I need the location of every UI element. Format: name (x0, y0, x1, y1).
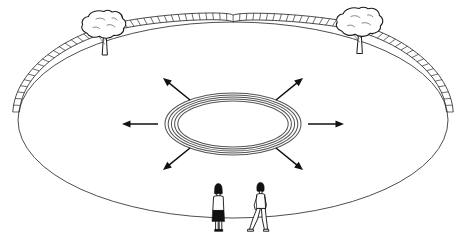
railing-post (293, 15, 296, 22)
railing-post (185, 14, 187, 21)
arrow-northeast-shaft (276, 82, 298, 100)
railing-post (164, 16, 167, 22)
person-walking-shoe-front (263, 229, 269, 231)
railing-post (77, 37, 83, 42)
railing-post (389, 39, 395, 43)
railing-post (192, 14, 194, 21)
railing-post (319, 18, 323, 24)
arrow-east-head (336, 120, 345, 127)
person-walking-leg-front (261, 208, 267, 229)
arrow-northeast (276, 78, 303, 100)
arrow-west-head (122, 120, 131, 127)
railing-post (417, 59, 424, 62)
railing-post (151, 17, 154, 23)
railing-post (144, 18, 147, 24)
railing-post (59, 47, 65, 51)
railing-post (401, 46, 407, 50)
railing-post (260, 13, 261, 20)
scene-svg (0, 0, 467, 244)
arrow-northwest (163, 78, 190, 100)
person-standing-shoes (215, 229, 223, 231)
person-walking-shoe-back (247, 229, 253, 231)
ring-5 (178, 101, 288, 147)
railing-post (377, 33, 383, 38)
railing-post (439, 86, 446, 87)
railing-post (15, 98, 22, 99)
arrow-northwest-shaft (168, 82, 190, 100)
ring-4 (175, 99, 292, 149)
concentric-rings (165, 93, 301, 155)
tree-left-canopy (82, 10, 126, 38)
railing-post (427, 69, 434, 71)
railing-post (18, 92, 25, 93)
person-standing-torso (213, 196, 224, 211)
railing-post (213, 13, 214, 20)
arrow-southwest (163, 148, 190, 170)
arrow-east (308, 120, 344, 127)
platform-outline (18, 22, 448, 218)
ring-2 (168, 95, 298, 153)
arrow-southeast (276, 148, 303, 170)
person-standing-leg-right (219, 221, 222, 230)
railing-post (431, 74, 438, 76)
railing-post (444, 98, 451, 99)
railing-post (407, 50, 413, 54)
person-walking-hair (257, 182, 264, 191)
railing-post (24, 80, 31, 81)
railing-post (326, 19, 330, 25)
railing-post (442, 92, 449, 93)
railing-post (412, 54, 419, 57)
ring-1 (165, 93, 301, 155)
elliptical-platform (18, 22, 448, 218)
illustration-canvas (0, 0, 467, 244)
railing-post (157, 16, 160, 22)
railing-post (48, 55, 54, 58)
arrow-west (122, 120, 158, 127)
railing-post (266, 13, 267, 20)
person-standing-legs (216, 221, 219, 230)
railing-post (299, 16, 302, 23)
radial-arrows (122, 78, 344, 170)
railing-post (306, 16, 309, 23)
person-walking (247, 182, 269, 231)
railing-post (37, 64, 44, 66)
railing-post (286, 14, 288, 21)
railing-post (42, 59, 49, 62)
person-standing (212, 184, 225, 232)
railing-post (246, 13, 247, 20)
railing-post (435, 80, 442, 82)
railing-post (65, 43, 71, 47)
person-standing-hair (214, 184, 222, 195)
person-walking-leg-back (249, 208, 260, 229)
railing-post (395, 43, 401, 47)
railing-post (137, 19, 141, 25)
railing-post (206, 13, 207, 20)
railing-post (71, 40, 77, 44)
railing-post (273, 14, 275, 21)
railing-post (313, 17, 316, 23)
tree-left (82, 10, 126, 55)
railing-post (422, 64, 429, 67)
railing-post (53, 51, 59, 54)
person-standing-skirt (212, 210, 225, 221)
railing-post (199, 13, 200, 20)
railing-post (279, 14, 281, 21)
railing-post (171, 15, 173, 22)
arrow-southwest-shaft (168, 148, 190, 166)
ring-3 (171, 97, 294, 151)
railing-post (253, 13, 254, 20)
railing-post (21, 86, 28, 87)
railing-post (130, 20, 134, 26)
railing-post (28, 74, 35, 76)
railing-post (178, 14, 180, 21)
railing-post (33, 69, 40, 71)
arrow-southeast-shaft (276, 148, 298, 166)
tree-right-canopy (336, 7, 382, 36)
railing-post (383, 36, 389, 41)
